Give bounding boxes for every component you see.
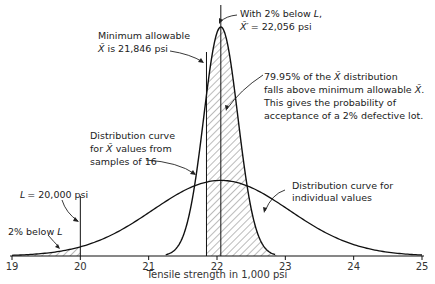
label-dist-samples-2: for X̄ values from <box>90 143 172 154</box>
arrow-xbar-prime <box>220 15 237 22</box>
x-tick-label: 24 <box>347 261 360 272</box>
x-tick-label: 20 <box>74 261 87 272</box>
label-79pct-3: This gives the probability of <box>263 97 397 108</box>
label-dist-indiv-2: individual values <box>292 192 372 203</box>
label-xbar-prime: X̄′= 22,056 psi <box>239 21 312 32</box>
label-79pct-2: falls above minimum allowable X̄. <box>264 84 424 95</box>
tensile-strength-chart: 19202122232425 Minimum allowable X̄is 21… <box>0 0 435 284</box>
label-79pct-4: acceptance of a 2% defective lot. <box>264 110 423 121</box>
label-dist-indiv-1: Distribution curve for <box>292 180 393 191</box>
label-79pct-1: 79.95% of the X̄ distribution <box>264 71 398 82</box>
label-dist-samples-3: samples of 16 <box>90 156 157 167</box>
shade-above-min-allowable <box>206 27 278 256</box>
label-min-allowable-1: Minimum allowable <box>98 30 190 41</box>
x-axis-label: Tensile strength in 1,000 psi <box>146 269 288 280</box>
label-2pct-below-L: 2% below L <box>8 226 63 237</box>
x-tick-label: 19 <box>6 261 19 272</box>
label-dist-samples-1: Distribution curve <box>90 130 175 141</box>
shaded-regions <box>12 27 279 256</box>
label-min-allowable-2: X̄is 21,846 psi <box>97 43 168 54</box>
label-with-2pct-1: With 2% below L, <box>240 8 322 19</box>
label-L-value: L= 20,000 psi <box>20 189 88 200</box>
x-tick-label: 25 <box>416 261 429 272</box>
arrow-min-allowable <box>170 51 203 62</box>
